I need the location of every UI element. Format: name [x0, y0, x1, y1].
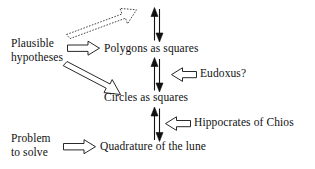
arrow-hypotheses-to-circles	[63, 62, 120, 95]
node-plausible-hypotheses: Plausible hypotheses	[11, 36, 63, 64]
arrow-hypotheses-to-polygons	[68, 41, 100, 55]
node-eudoxus: Eudoxus?	[200, 67, 246, 80]
node-plausible-hypotheses-line2: hypotheses	[11, 50, 63, 64]
double-arrow-polygons-top	[151, 8, 163, 43]
flow-diagram: Plausible hypotheses Polygons as squares…	[0, 0, 315, 169]
node-hippocrates-of-chios: Hippocrates of Chios	[194, 116, 294, 129]
node-plausible-hypotheses-line1: Plausible	[11, 36, 63, 50]
node-problem-to-solve: Problem to solve	[11, 131, 51, 159]
node-circles-as-squares: Circles as squares	[104, 91, 188, 104]
arrow-problem-to-quadrature	[64, 140, 96, 154]
dashed-diagonal-up-arrow	[67, 8, 137, 38]
double-arrow-polygons-circles	[151, 58, 163, 93]
node-quadrature-of-the-lune: Quadrature of the lune	[100, 140, 206, 153]
double-arrow-circles-quadrature	[151, 107, 163, 142]
arrow-hippocrates-to-link	[166, 117, 191, 131]
node-problem-to-solve-line2: to solve	[11, 145, 51, 159]
arrow-eudoxus-to-link	[172, 68, 197, 82]
node-problem-to-solve-line1: Problem	[11, 131, 51, 145]
node-polygons-as-squares: Polygons as squares	[104, 42, 199, 55]
